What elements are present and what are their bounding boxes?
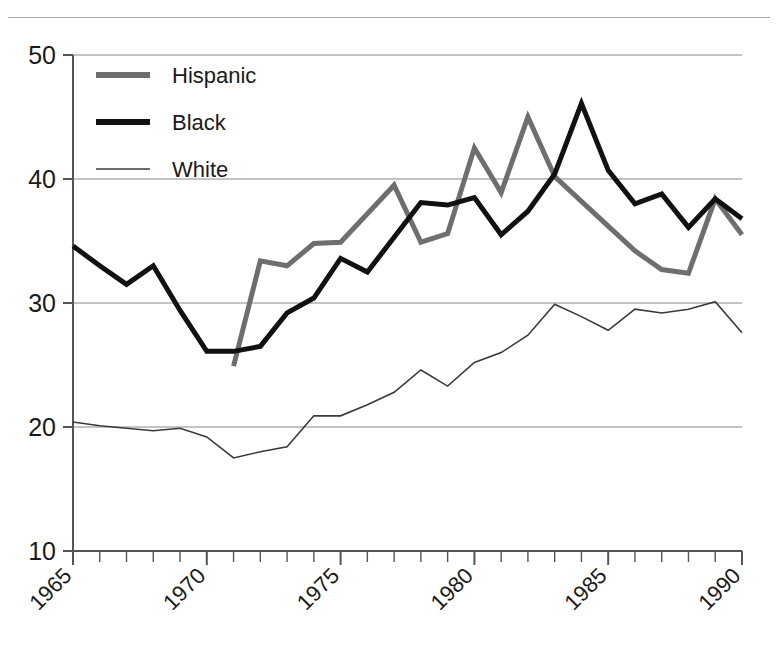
legend-label-hispanic: Hispanic [172, 63, 256, 88]
top-divider-rule [8, 17, 770, 18]
line-chart: 1020304050 196519701975198019851990 Hisp… [0, 0, 777, 645]
figure-container: 1020304050 196519701975198019851990 Hisp… [0, 0, 777, 645]
y-tick-label-20: 20 [28, 413, 56, 441]
y-tick-label-50: 50 [28, 41, 56, 69]
x-tick-label-1965: 1965 [24, 563, 76, 615]
series-line-hispanic [234, 117, 742, 366]
y-tick-label-40: 40 [28, 165, 56, 193]
x-tick-label-1990: 1990 [693, 563, 745, 615]
legend-label-black: Black [172, 110, 227, 135]
chart-legend: HispanicBlackWhite [96, 63, 256, 182]
x-tick-label-1980: 1980 [426, 563, 478, 615]
series-line-black [73, 103, 742, 351]
x-tick-label-1985: 1985 [559, 563, 611, 615]
y-tick-label-10: 10 [28, 537, 56, 565]
series-line-white [73, 302, 742, 458]
x-tick-label-1970: 1970 [158, 563, 210, 615]
x-axis-tick-labels: 196519701975198019851990 [24, 563, 745, 615]
x-tick-label-1975: 1975 [292, 563, 344, 615]
y-axis-tick-labels: 1020304050 [28, 41, 56, 565]
legend-label-white: White [172, 157, 228, 182]
y-tick-label-30: 30 [28, 289, 56, 317]
